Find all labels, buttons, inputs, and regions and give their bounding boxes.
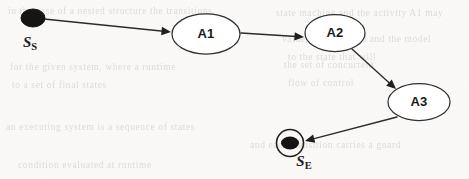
node-a3[interactable]: A3 — [388, 84, 450, 121]
final-state-inner-dot — [281, 137, 299, 150]
activity-label: A3 — [410, 94, 427, 109]
bleedthrough-line: and each transition carries a guard — [250, 140, 401, 150]
bleedthrough-line: for the given system, where a runtime — [10, 62, 176, 72]
initial-state-marker[interactable] — [21, 9, 45, 27]
activity-label: A1 — [197, 26, 214, 41]
bleedthrough-line: state machine and the activity A1 may — [276, 8, 443, 18]
bleedthrough-line: condition evaluated at runtime — [18, 160, 152, 170]
bleedthrough-line: the set of concurrent — [284, 60, 374, 70]
node-a1[interactable]: A1 — [172, 14, 240, 54]
state-diagram-container: in the case of a nested structure the tr… — [0, 0, 469, 179]
activity-label: A2 — [326, 25, 343, 40]
bleedthrough-line: to a set of final states — [12, 80, 107, 90]
initial-state-label-subscript: S — [31, 41, 37, 52]
bleedthrough-line: an executing system is a sequence of sta… — [6, 122, 195, 132]
bleedthrough-line: flow of control — [288, 78, 354, 88]
final-state-label-subscript: E — [305, 160, 312, 171]
diagram-canvas: in the case of a nested structure the tr… — [0, 0, 469, 179]
node-a2[interactable]: A2 — [305, 15, 365, 52]
